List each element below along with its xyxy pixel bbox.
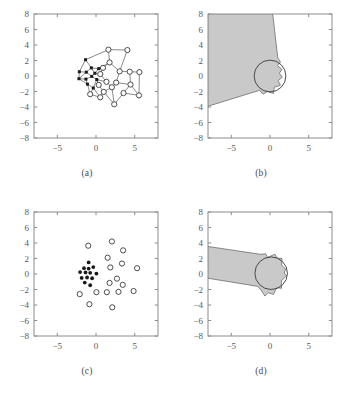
svg-text:6: 6 <box>25 25 30 35</box>
svg-text:2: 2 <box>199 254 204 264</box>
svg-text:4: 4 <box>25 238 30 248</box>
svg-text:8: 8 <box>25 9 30 19</box>
panel-d: 86420−2−4−6−8−505 (d) <box>174 198 348 396</box>
svg-text:0: 0 <box>94 341 99 351</box>
svg-text:−6: −6 <box>19 316 29 326</box>
svg-text:−8: −8 <box>193 133 203 143</box>
svg-text:0: 0 <box>25 269 30 279</box>
svg-text:5: 5 <box>307 341 312 351</box>
svg-text:4: 4 <box>199 238 204 248</box>
svg-text:−4: −4 <box>193 300 203 310</box>
svg-text:−6: −6 <box>193 316 203 326</box>
panel-b-caption: (b) <box>174 168 348 178</box>
svg-text:2: 2 <box>25 254 30 264</box>
svg-text:−2: −2 <box>19 285 29 295</box>
svg-text:0: 0 <box>199 71 204 81</box>
panel-c-axes: 86420−2−4−6−8−505 <box>19 207 158 351</box>
panel-b: 86420−2−4−6−8−505 (b) <box>174 0 348 198</box>
svg-text:−4: −4 <box>19 102 29 112</box>
panel-a-caption: (a) <box>0 168 174 178</box>
svg-text:4: 4 <box>199 40 204 50</box>
svg-text:−5: −5 <box>226 143 236 153</box>
svg-text:−8: −8 <box>193 331 203 341</box>
svg-text:8: 8 <box>25 207 30 217</box>
svg-text:−5: −5 <box>52 143 62 153</box>
svg-text:0: 0 <box>25 71 30 81</box>
svg-text:0: 0 <box>268 143 273 153</box>
panel-c-caption: (c) <box>0 366 174 376</box>
svg-text:0: 0 <box>268 341 273 351</box>
figure-root: 86420−2−4−6−8−505 (a) 86420−2−4−6−8−505 … <box>0 0 348 396</box>
svg-text:5: 5 <box>133 341 138 351</box>
svg-text:5: 5 <box>307 143 312 153</box>
svg-text:2: 2 <box>199 56 204 66</box>
svg-text:6: 6 <box>199 223 204 233</box>
panel-d-caption: (d) <box>174 366 348 376</box>
svg-text:−5: −5 <box>52 341 62 351</box>
svg-text:−4: −4 <box>193 102 203 112</box>
svg-text:2: 2 <box>25 56 30 66</box>
svg-text:−2: −2 <box>193 285 203 295</box>
panel-d-content <box>208 246 287 296</box>
svg-text:−5: −5 <box>226 341 236 351</box>
svg-text:6: 6 <box>25 223 30 233</box>
svg-text:6: 6 <box>199 25 204 35</box>
panel-a-content <box>77 47 142 107</box>
panel-c-content <box>77 239 140 310</box>
svg-text:8: 8 <box>199 9 204 19</box>
svg-text:0: 0 <box>199 269 204 279</box>
panel-a: 86420−2−4−6−8−505 (a) <box>0 0 174 198</box>
svg-text:0: 0 <box>94 143 99 153</box>
svg-text:5: 5 <box>133 143 138 153</box>
svg-text:−6: −6 <box>193 118 203 128</box>
svg-text:−6: −6 <box>19 118 29 128</box>
svg-text:−8: −8 <box>19 133 29 143</box>
panel-b-content <box>208 14 286 106</box>
svg-text:4: 4 <box>25 40 30 50</box>
svg-text:−8: −8 <box>19 331 29 341</box>
svg-text:8: 8 <box>199 207 204 217</box>
panel-c: 86420−2−4−6−8−505 (c) <box>0 198 174 396</box>
svg-text:−4: −4 <box>19 300 29 310</box>
svg-text:−2: −2 <box>19 87 29 97</box>
svg-text:−2: −2 <box>193 87 203 97</box>
panel-a-axes: 86420−2−4−6−8−505 <box>19 9 158 153</box>
